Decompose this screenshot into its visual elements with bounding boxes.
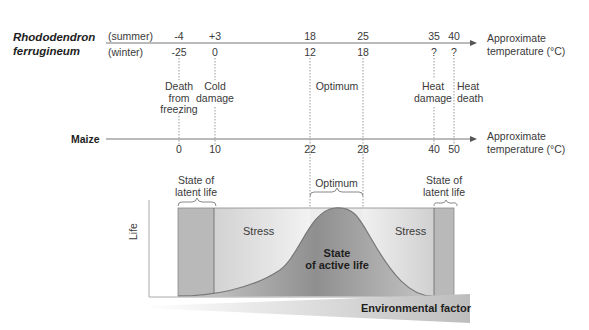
maize-value: 50 (444, 143, 464, 155)
winter-value: 12 (300, 46, 320, 58)
active-life-2: of active life (300, 259, 374, 271)
latent-right-1: State of (412, 174, 476, 186)
maize-value: 0 (169, 143, 189, 155)
zone-cold-damage-2: damage (195, 92, 235, 104)
rhododendron-axis-label-line2: temperature (°C) (487, 45, 565, 57)
summer-value: 40 (444, 30, 464, 42)
winter-value: 18 (353, 46, 373, 58)
x-axis-label: Environmental factor (361, 302, 471, 314)
optimum-label: Optimum (310, 177, 363, 189)
maize-value: 10 (205, 143, 225, 155)
rhododendron-axis-label-line1: Approximate (487, 32, 546, 44)
maize-axis-label-line2: temperature (°C) (487, 143, 565, 155)
winter-value: 0 (205, 46, 225, 58)
maize-value: 28 (353, 143, 373, 155)
winter-value: -25 (169, 46, 189, 58)
rhododendron-species-line2: ferrugineum (13, 45, 80, 58)
latent-right-2: latent life (412, 186, 476, 198)
latent-left-1: State of (164, 174, 228, 186)
zone-heat-death-1: Heat (457, 80, 479, 92)
rhododendron-species-line1: Rhododendron (13, 31, 95, 44)
zone-heat-damage-1: Heat (414, 80, 452, 92)
summer-value: 18 (300, 30, 320, 42)
maize-axis (106, 136, 477, 142)
zone-death-freezing-1: Death (159, 80, 199, 92)
winter-label: (winter) (108, 46, 143, 58)
maize-axis-label-line1: Approximate (487, 130, 546, 142)
winter-value: ? (424, 46, 444, 58)
zone-heat-death-2: death (457, 92, 483, 104)
maize-species: Maize (71, 133, 100, 145)
summer-label: (summer) (108, 30, 153, 42)
maize-value: 22 (300, 143, 320, 155)
y-axis-label: Life (127, 223, 139, 240)
summer-value: 25 (353, 30, 373, 42)
summer-value: 35 (424, 30, 444, 42)
latent-left-2: latent life (164, 186, 228, 198)
rhododendron-axis (106, 40, 477, 46)
stress-right-label: Stress (395, 225, 426, 237)
zone-heat-damage-2: damage (410, 92, 456, 104)
summer-value: -4 (169, 30, 189, 42)
zone-death-freezing-3: freezing (159, 103, 199, 115)
active-life-1: State (300, 247, 374, 259)
zone-cold-damage-1: Cold (195, 80, 235, 92)
maize-value: 40 (424, 143, 444, 155)
zone-optimum: Optimum (313, 80, 361, 92)
stress-left-label: Stress (243, 225, 274, 237)
winter-value: ? (444, 46, 464, 58)
summer-value: +3 (205, 30, 225, 42)
